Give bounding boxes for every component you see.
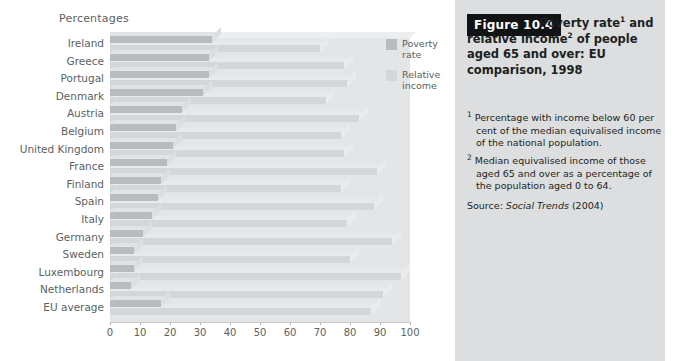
relative-income-bar-end-face	[377, 159, 386, 175]
relative-income-bar-end-face	[371, 299, 380, 315]
source-title: Social Trends	[506, 200, 569, 211]
legend-label-poverty-rate: Poverty rate	[402, 38, 452, 60]
relative-income-bar	[110, 273, 401, 280]
poverty-rate-bar	[110, 177, 161, 184]
category-label: Denmark	[56, 90, 104, 102]
category-label: Netherlands	[40, 283, 104, 295]
figure-title: Poverty rate1 and relative income2 of pe…	[467, 16, 655, 78]
relative-income-bar-end-face	[374, 194, 383, 210]
source-year: (2004)	[569, 200, 604, 211]
relative-income-bar-top-face	[110, 269, 405, 273]
poverty-rate-bar	[110, 265, 134, 272]
x-axis-tick-label: 10	[134, 327, 147, 338]
poverty-rate-bar	[110, 124, 176, 131]
poverty-rate-bar-top-face	[110, 102, 186, 106]
bar-row: Sweden	[110, 247, 430, 265]
legend: Poverty rateRelative income	[386, 38, 452, 100]
poverty-rate-bar	[110, 89, 203, 96]
poverty-rate-bar-top-face	[110, 67, 213, 71]
legend-swatch-poverty-rate	[386, 39, 397, 50]
category-label: Finland	[66, 178, 104, 190]
x-axis-tick-label: 20	[164, 327, 177, 338]
poverty-rate-bar-top-face	[110, 85, 207, 89]
poverty-rate-bar-top-face	[110, 155, 171, 159]
poverty-rate-bar	[110, 142, 173, 149]
bar-row: Germany	[110, 230, 430, 248]
axis-title-percentages: Percentages	[59, 12, 129, 25]
category-label: Belgium	[61, 125, 104, 137]
poverty-rate-bar-top-face	[110, 50, 213, 54]
poverty-rate-bar	[110, 54, 209, 61]
relative-income-bar	[110, 256, 350, 263]
relative-income-bar-end-face	[326, 88, 335, 104]
x-axis-tick-mark	[350, 322, 351, 325]
poverty-rate-bar-top-face	[110, 173, 165, 177]
x-axis-tick-mark	[200, 322, 201, 325]
x-axis-tick-mark	[140, 322, 141, 325]
x-axis-tick-label: 70	[314, 327, 327, 338]
x-axis-tick-label: 90	[374, 327, 387, 338]
relative-income-bar-end-face	[350, 247, 359, 263]
x-axis-tick-label: 60	[284, 327, 297, 338]
x-axis-tick-mark	[260, 322, 261, 325]
poverty-rate-bar-top-face	[110, 208, 156, 212]
right-gutter	[665, 0, 680, 361]
relative-income-bar-end-face	[392, 229, 401, 245]
chart-area: Percentages IrelandGreecePortugalDenmark…	[0, 0, 455, 361]
category-label: Sweden	[63, 248, 105, 260]
x-axis-tick-mark	[320, 322, 321, 325]
relative-income-bar-end-face	[344, 141, 353, 157]
x-axis-tick-label: 50	[254, 327, 267, 338]
x-axis-tick-label: 100	[400, 327, 419, 338]
category-label: Italy	[81, 213, 104, 225]
category-label: Ireland	[68, 37, 104, 49]
legend-item-poverty-rate: Poverty rate	[386, 38, 452, 60]
relative-income-bar-end-face	[347, 71, 356, 87]
relative-income-bar-end-face	[383, 282, 392, 298]
legend-item-relative-income: Relative income	[386, 69, 452, 91]
x-axis-tick-label: 0	[107, 327, 113, 338]
relative-income-bar	[110, 308, 371, 315]
poverty-rate-bar	[110, 106, 182, 113]
footnote-2: 2 Median equivalised income of those age…	[467, 155, 666, 193]
relative-income-bar-end-face	[359, 106, 368, 122]
source-prefix: Source:	[467, 200, 506, 211]
category-label: Austria	[67, 107, 104, 119]
category-label: Greece	[67, 55, 104, 67]
relative-income-bar-end-face	[341, 123, 350, 139]
poverty-rate-bar	[110, 300, 161, 307]
source-line: Source: Social Trends (2004)	[467, 200, 657, 213]
poverty-rate-bar-top-face	[110, 138, 177, 142]
relative-income-bar-top-face	[110, 287, 387, 291]
x-axis-tick-label: 80	[344, 327, 357, 338]
bar-row: Italy	[110, 212, 430, 230]
poverty-rate-bar	[110, 282, 131, 289]
x-axis-tick-mark	[230, 322, 231, 325]
x-axis-tick-label: 30	[194, 327, 207, 338]
x-axis-tick-label: 40	[224, 327, 237, 338]
poverty-rate-bar	[110, 159, 167, 166]
legend-swatch-relative-income	[386, 70, 397, 81]
relative-income-bar-end-face	[341, 176, 350, 192]
bar-rows: IrelandGreecePortugalDenmarkAustriaBelgi…	[110, 36, 430, 322]
poverty-rate-bar-top-face	[110, 296, 165, 300]
x-axis-tick-mark	[110, 322, 111, 325]
category-label: Portugal	[61, 72, 105, 84]
poverty-rate-bar-top-face	[110, 226, 147, 230]
poverty-rate-bar	[110, 230, 143, 237]
poverty-rate-bar	[110, 247, 134, 254]
x-axis: 0102030405060708090100	[110, 322, 430, 348]
category-label: United Kingdom	[20, 143, 104, 155]
relative-income-bar-end-face	[347, 211, 356, 227]
category-label: Spain	[75, 195, 104, 207]
bar-row: EU average	[110, 300, 430, 318]
relative-income-bar-end-face	[401, 264, 410, 280]
category-label: Germany	[56, 231, 104, 243]
relative-income-bar-end-face	[344, 53, 353, 69]
poverty-rate-bar-top-face	[110, 190, 162, 194]
footnote-1: 1 Percentage with income below 60 per ce…	[467, 112, 666, 150]
bar-row: Luxembourg	[110, 265, 430, 283]
relative-income-bar	[110, 238, 392, 245]
relative-income-bar-top-face	[110, 234, 396, 238]
legend-label-relative-income: Relative income	[402, 69, 452, 91]
